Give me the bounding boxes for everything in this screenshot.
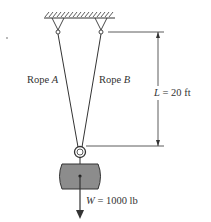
rope-b [82,34,101,147]
ceiling-support [44,12,115,18]
dimension-arrow-top [156,32,160,38]
ring [75,147,86,158]
rope-diagram: Rope A Rope B L = 20 ft W = 1000 lb [0,0,211,222]
stray-dot [6,37,8,39]
length-label: L = 20 ft [153,87,191,98]
right-bracket [95,18,107,34]
weight-label: W = 1000 lb [86,195,138,206]
left-bracket [52,18,64,34]
dimension-L [86,32,164,146]
dimension-arrow-bottom [156,140,160,146]
rope-b-label: Rope B [99,74,131,85]
rope-a [58,34,78,147]
rope-a-label: Rope A [27,74,59,85]
